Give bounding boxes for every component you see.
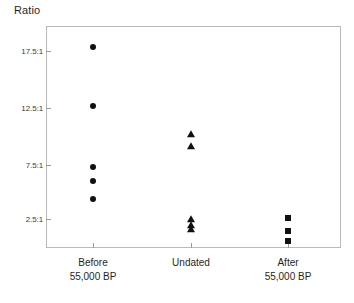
scatter-plot-figure: Ratio 17.5:1 12.5:1 7.5:1 2.5:1 Before 5… <box>0 0 354 303</box>
y-axis-tick-labels: 17.5:1 12.5:1 7.5:1 2.5:1 <box>0 0 43 303</box>
x-tick-label-before-line1: Before <box>78 257 107 268</box>
data-point-square <box>285 228 291 234</box>
y-tick-label-12-5: 12.5:1 <box>21 104 43 113</box>
data-point-circle <box>90 44 96 50</box>
y-tick-label-2-5: 2.5:1 <box>26 215 43 224</box>
data-point-triangle <box>187 225 195 232</box>
y-tick-label-7-5: 7.5:1 <box>26 161 43 170</box>
data-point-square <box>285 238 291 244</box>
x-tick-label-undated-line1: Undated <box>172 257 210 268</box>
x-tick-label-before: Before 55,000 BP <box>70 256 117 284</box>
data-point-triangle <box>187 130 195 137</box>
x-tick-label-before-line2: 55,000 BP <box>70 270 117 284</box>
x-tick-label-after: After 55,000 BP <box>265 256 312 284</box>
data-point-triangle <box>187 142 195 149</box>
data-point-circle <box>90 164 96 170</box>
data-point-circle <box>90 178 96 184</box>
x-tick-label-undated: Undated <box>172 256 210 270</box>
x-tick-label-after-line1: After <box>277 257 298 268</box>
data-point-circle <box>90 196 96 202</box>
data-point-square <box>285 215 291 221</box>
y-tick-label-17-5: 17.5:1 <box>21 47 43 56</box>
data-point-circle <box>90 103 96 109</box>
x-tick-label-after-line2: 55,000 BP <box>265 270 312 284</box>
